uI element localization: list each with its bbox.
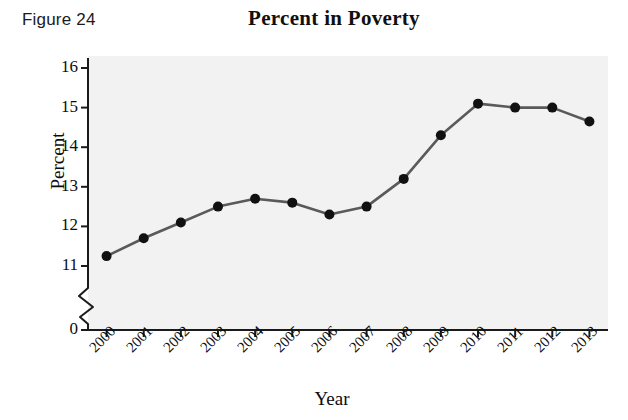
x-tick-label: 2010 <box>457 323 490 356</box>
x-tick-label: 2005 <box>271 323 304 356</box>
x-axis-title: Year <box>0 388 628 410</box>
x-tick-label: 2012 <box>531 323 564 356</box>
x-tick-label: 2006 <box>308 323 341 356</box>
x-tick-label: 2004 <box>234 323 267 356</box>
x-tick-label: 2011 <box>494 323 527 356</box>
y-axis-title: Percent <box>47 101 69 221</box>
x-tick-label-group: 2000200120022003200420052006200720082009… <box>0 0 628 420</box>
figure-container: Figure 24 Percent in Poverty 16151413121… <box>0 0 628 420</box>
x-tick-label: 2009 <box>420 323 453 356</box>
x-tick-label: 2007 <box>346 323 379 356</box>
x-tick-label: 2008 <box>383 323 416 356</box>
x-tick-label: 2013 <box>568 323 601 356</box>
x-tick-label: 2000 <box>86 323 119 356</box>
x-tick-label: 2002 <box>160 323 193 356</box>
x-tick-label: 2003 <box>197 323 230 356</box>
x-tick-label: 2001 <box>123 323 156 356</box>
